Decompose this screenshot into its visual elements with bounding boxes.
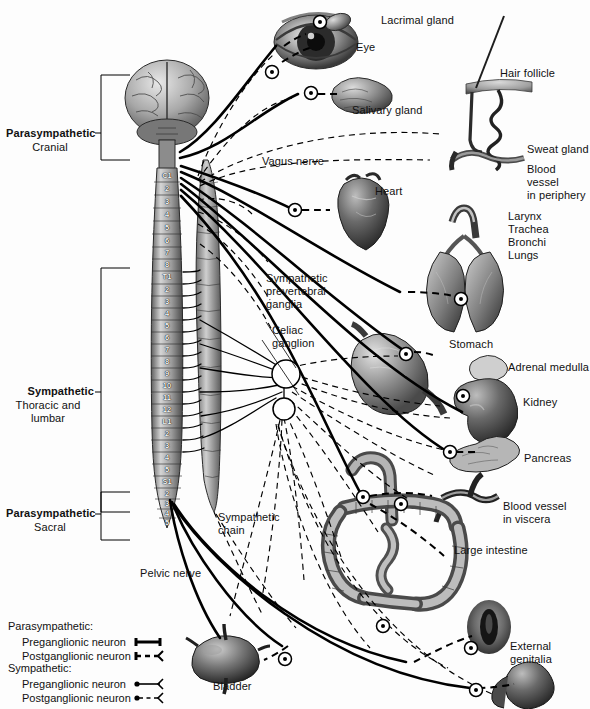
segment-s5: 5 [158, 519, 176, 527]
organ-label-large-intestine: Large intestine [454, 544, 528, 557]
segment-l2: 2 [158, 430, 176, 438]
segment-l3: 3 [158, 442, 176, 450]
legend-symbol-para-post [136, 651, 163, 661]
anatomy-illustration [0, 0, 590, 709]
segment-l5: 5 [158, 466, 176, 474]
legend-label-para-postganglionic: Postganglionic neuron [22, 650, 131, 662]
organ-label-external-genitalia: External genitalia [510, 640, 552, 666]
division-label-parasympathetic-cranial: Parasympathetic [6, 127, 94, 140]
segment-c4: 4 [158, 211, 176, 219]
nerve-label-sympathetic-chain: Sympathetic chain [218, 511, 280, 537]
segment-s3: 3 [158, 500, 176, 508]
organ-label-sweat-gland: Sweat gland [527, 143, 589, 156]
large-intestine-illustration [324, 458, 465, 604]
organ-label-hair-follicle: Hair follicle [500, 67, 555, 80]
division-sublabel-cranial: Cranial [6, 141, 94, 154]
diagram-page: Parasympathetic Cranial Sympathetic Thor… [0, 0, 590, 709]
nerve-label-pelvic-nerve: Pelvic nerve [140, 567, 201, 580]
segment-c5: 5 [158, 224, 176, 232]
bracket-parasympathetic-cranial [95, 75, 130, 160]
legend-symbols [134, 638, 163, 703]
segment-t1: T1 [158, 273, 176, 281]
ganglion-prevertebral-cluster [272, 360, 300, 388]
segment-s4: 4 [158, 510, 176, 518]
segment-t6: 6 [158, 334, 176, 342]
legend-heading-sympathetic: Sympathetic: [8, 662, 72, 674]
segment-t4: 4 [158, 310, 176, 318]
segment-c8: 8 [158, 261, 176, 269]
legend-symbol-para-pre [136, 638, 160, 646]
ganglion-celiac [273, 398, 295, 420]
segment-t9: 9 [158, 370, 176, 378]
lungs-illustration [427, 208, 504, 332]
segment-t8: 8 [158, 358, 176, 366]
segment-t10: 10 [158, 382, 176, 390]
division-label-sympathetic: Sympathetic [6, 385, 94, 398]
division-label-parasympathetic-sacral: Parasympathetic [6, 507, 94, 520]
bracket-sympathetic [95, 268, 130, 512]
segment-t2: 2 [158, 286, 176, 294]
segment-l1: L1 [158, 418, 176, 426]
segment-t3: 3 [158, 298, 176, 306]
organ-label-heart: Heart [375, 185, 402, 198]
organ-label-respiratory: Larynx Trachea Bronchi Lungs [508, 210, 549, 262]
segment-c2: 2 [158, 185, 176, 193]
brain-illustration [125, 60, 209, 175]
division-brackets [95, 75, 130, 540]
segment-c3: 3 [158, 198, 176, 206]
organ-label-stomach: Stomach [449, 338, 493, 351]
segment-s1: S1 [158, 478, 176, 486]
organ-label-pancreas: Pancreas [524, 452, 571, 465]
skin-illustration [452, 16, 533, 170]
legend-symbol-symp-post [134, 693, 163, 703]
legend-label-symp-postganglionic: Postganglionic neuron [22, 692, 131, 704]
segment-t5: 5 [158, 322, 176, 330]
adrenal-medulla-illustration [469, 355, 507, 381]
legend-label-para-preganglionic: Preganglionic neuron [22, 636, 126, 648]
segment-t12: 12 [158, 406, 176, 414]
division-sublabel-sacral: Sacral [6, 521, 94, 534]
segment-l4: 4 [158, 454, 176, 462]
segment-c7: 7 [158, 249, 176, 257]
organ-label-blood-vessel-viscera: Blood vessel in viscera [503, 500, 567, 526]
organ-label-lacrimal-gland: Lacrimal gland [381, 14, 454, 27]
organ-label-blood-vessel-periphery: Blood vessel in periphery [527, 163, 590, 202]
nerve-label-vagus-nerve: Vagus nerve [262, 155, 324, 168]
legend-label-symp-preganglionic: Preganglionic neuron [22, 678, 126, 690]
segment-s2: 2 [158, 490, 176, 498]
organ-label-eye: Eye [356, 41, 375, 54]
pancreas-illustration [450, 436, 520, 472]
nerve-label-sympathetic-prevertebral-ganglia: Sympathetic prevertebral ganglia [266, 272, 328, 311]
legend-heading-parasympathetic: Parasympathetic: [8, 620, 93, 632]
segment-c6: 6 [158, 237, 176, 245]
stomach-illustration [351, 324, 444, 415]
segment-c1: C1 [158, 172, 176, 180]
nerve-label-celiac-ganglion: Celiac ganglion [272, 324, 314, 350]
segment-t11: 11 [158, 394, 176, 402]
bracket-parasympathetic-sacral [95, 492, 130, 540]
organ-label-kidney: Kidney [523, 396, 557, 409]
organ-label-salivary-gland: Salivary gland [352, 104, 423, 117]
segment-t7: 7 [158, 346, 176, 354]
division-sublabel-thoracic-lumbar: Thoracic and lumbar [0, 399, 96, 425]
legend-symbol-symp-pre [134, 679, 163, 689]
organ-label-bladder: Bladder [213, 680, 252, 693]
organ-label-adrenal-medulla: Adrenal medulla [508, 361, 589, 374]
